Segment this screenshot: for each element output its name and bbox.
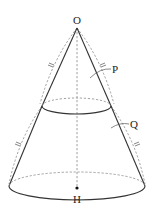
right-slant-lower [111, 106, 145, 186]
p-leader-line [90, 69, 111, 78]
cone-diagram: O P Q H [0, 0, 156, 218]
cut-ellipse-front [42, 106, 111, 114]
label-base-center: H [73, 193, 81, 205]
left-slant-upper [42, 28, 77, 106]
label-lower-solid: Q [130, 118, 138, 130]
base-center-point [75, 186, 78, 189]
left-slant-lower [9, 106, 42, 186]
right-slant-upper [77, 28, 111, 106]
label-apex: O [73, 14, 81, 26]
equal-tick-marks [15, 63, 140, 146]
cut-ellipse-back [42, 98, 111, 106]
label-upper-solid: P [112, 63, 118, 75]
